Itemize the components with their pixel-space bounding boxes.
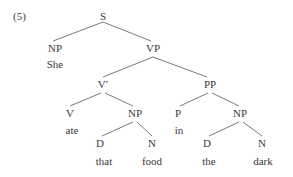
node-np-pp: NP: [233, 107, 247, 119]
word-food: food: [142, 155, 162, 167]
node-vbar: V′: [98, 78, 108, 90]
branch-vbar-np: [105, 93, 133, 106]
branch-vp-pp: [153, 57, 207, 77]
branch-s-np: [53, 22, 103, 41]
tree-branches: [0, 0, 293, 177]
word-ate: ate: [66, 124, 79, 136]
syntax-tree: (5) S NP She VP V′ PP V ate NP P in NP D…: [0, 0, 293, 177]
branch-s-vp: [103, 22, 151, 41]
branch-vbar-v: [70, 93, 101, 106]
node-p: P: [175, 107, 181, 119]
branch-np-d1: [102, 122, 133, 136]
node-d-that: D: [96, 137, 104, 149]
word-that: that: [96, 155, 113, 167]
branch-vp-vbar: [103, 57, 153, 77]
node-n-dark: N: [258, 137, 266, 149]
node-d-the: D: [203, 137, 211, 149]
word-the: the: [202, 155, 215, 167]
node-s: S: [100, 10, 106, 22]
branch-pp-np: [212, 93, 239, 106]
branch-np-n1: [137, 122, 152, 136]
example-number: (5): [13, 10, 26, 22]
node-vp: VP: [146, 42, 160, 54]
word-dark: dark: [253, 155, 273, 167]
branch-np-d2: [209, 122, 239, 136]
branch-np-n2: [243, 122, 262, 136]
node-v: V: [66, 107, 74, 119]
node-np-object: NP: [128, 107, 142, 119]
node-np-subject: NP: [48, 42, 62, 54]
word-in: in: [175, 124, 184, 136]
node-pp: PP: [204, 78, 216, 90]
branch-pp-p: [180, 93, 208, 106]
word-she: She: [47, 58, 64, 70]
node-n-food: N: [148, 137, 156, 149]
